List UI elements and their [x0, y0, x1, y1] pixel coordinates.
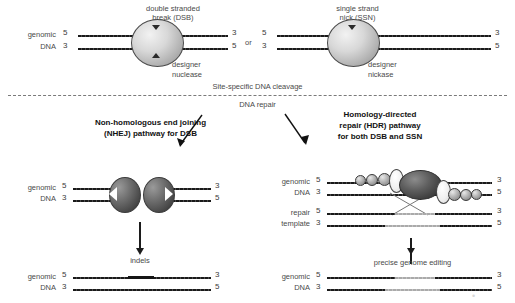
hdr-template-top-right-dark	[435, 213, 492, 215]
hdr-template-right-top-tick: 3	[497, 206, 501, 215]
hdr-template-bottom-left-dark	[327, 225, 385, 227]
hdr-outcome-row-label-line2: DNA	[258, 283, 310, 292]
hdr-bead-left-2	[366, 174, 378, 186]
hdr-outcome-top-left-dark	[327, 277, 395, 279]
hdr-outcome-row-label-line1: genomic	[258, 272, 310, 281]
hdr-outcome-top-right-dark	[435, 277, 492, 279]
hdr-template-top-gray	[395, 213, 435, 215]
crispr-repair-pathway-diagram: double stranded break (DSB) genomic DNA …	[0, 0, 515, 303]
hdr-template-label-line2: template	[258, 219, 310, 228]
hdr-template-bottom-gray	[385, 225, 440, 227]
hdr-template-left-top-tick: 5	[316, 206, 320, 215]
hdr-template-top-left-dark	[327, 213, 395, 215]
hdr-outcome-right-bottom-tick: 5	[497, 282, 501, 291]
hdr-outcome-left-bottom-tick: 3	[316, 282, 320, 291]
hdr-bead-right-3	[471, 189, 482, 200]
hdr-bead-left-1	[355, 175, 366, 186]
hdr-template-bottom-right-dark	[440, 225, 492, 227]
hdr-template-label-line1: repair	[258, 208, 310, 217]
hdr-outcome-bottom-gray	[385, 289, 440, 291]
hdr-template-right-bottom-tick: 5	[497, 218, 501, 227]
hdr-outcome-bottom-left-dark	[327, 289, 385, 291]
hdr-outcome-left-top-tick: 5	[316, 270, 320, 279]
hdr-outcome-bottom-right-dark	[440, 289, 492, 291]
hdr-outcome-top-gray	[395, 277, 435, 279]
hdr-outcome-right-top-tick: 3	[497, 270, 501, 279]
hdr-outcome-label: precise genome editing	[345, 258, 480, 267]
watermark-artifact: •	[472, 291, 475, 301]
hdr-template-left-bottom-tick: 3	[316, 218, 320, 227]
hdr-process-arrow-head	[407, 248, 415, 255]
